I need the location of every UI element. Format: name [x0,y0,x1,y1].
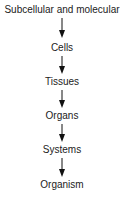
down-arrow-icon [58,18,66,38]
down-arrow-icon [58,158,66,177]
level-systems: Systems [0,144,124,156]
down-arrow-icon [58,90,66,108]
down-arrow-icon [58,124,66,142]
down-arrow-icon [58,56,66,74]
level-subcellular-molecular: Subcellular and molecular [0,4,124,16]
level-cells: Cells [0,42,124,54]
level-organs: Organs [0,110,124,122]
level-organism: Organism [0,179,124,191]
level-tissues: Tissues [0,76,124,88]
